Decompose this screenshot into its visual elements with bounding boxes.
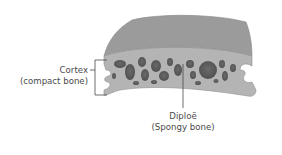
diploe-label-title: Diploë (151, 111, 214, 122)
cortex-label: Cortex (compact bone) (20, 65, 88, 87)
cortex-label-title: Cortex (20, 65, 88, 76)
cortex-label-subtitle: (compact bone) (20, 76, 88, 87)
diploe-label: Diploë (Spongy bone) (151, 111, 214, 133)
diploe-label-subtitle: (Spongy bone) (151, 122, 214, 133)
